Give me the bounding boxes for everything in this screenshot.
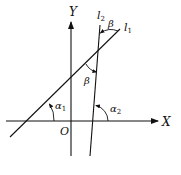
- diagram-canvas: Y X O l2 l1 β β α1 α2: [0, 0, 181, 175]
- l1-label: l1: [124, 21, 132, 35]
- origin-label: O: [60, 125, 69, 138]
- y-axis-label: Y: [69, 5, 78, 19]
- alpha2-arc: [96, 106, 108, 122]
- beta-top-label: β: [107, 18, 114, 29]
- alpha1-label: α1: [55, 100, 66, 113]
- x-axis-label: X: [161, 115, 171, 129]
- alpha2-label: α2: [110, 103, 121, 116]
- beta-mid-label: β: [83, 75, 90, 86]
- l2-label: l2: [97, 9, 105, 23]
- line-l2: [90, 25, 100, 156]
- alpha1-arc: [50, 104, 55, 121]
- beta-mid-arc: [86, 64, 97, 72]
- beta-top-arc: [101, 30, 119, 33]
